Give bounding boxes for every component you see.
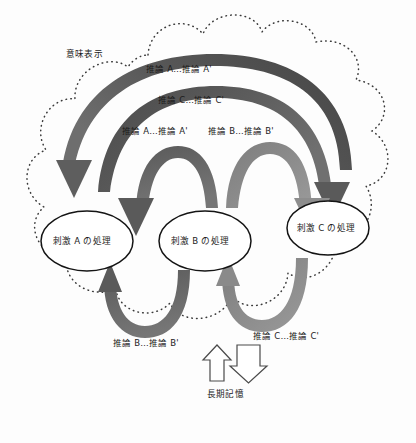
- node-label-a: 刺激 A の処理: [53, 237, 111, 246]
- arrow-label-bottom-right: 推論 C…推論 C': [253, 332, 319, 341]
- arrow-label-top-second: 推論 C…推論 C': [158, 96, 224, 105]
- node-label-b: 刺激 B の処理: [171, 237, 229, 246]
- cloud-label: 意味表示: [66, 50, 103, 59]
- node-label-c: 刺激 C の処理: [297, 224, 355, 233]
- arrow-label-top-outer: 推論 A…推論 A': [146, 65, 212, 74]
- arrow-bottom-right: [216, 256, 308, 332]
- down-arrow-icon: [230, 345, 267, 383]
- arrow-bottom-left: [98, 262, 190, 338]
- long-term-memory-label: 長期記憶: [207, 390, 244, 399]
- arrow-label-mid-right: 推論 B…推論 B': [208, 127, 274, 136]
- diagram-canvas: 意味表示 推論 A…推論 A' 推論 C…推論 C' 推論 A…推論 A' 推論…: [0, 0, 416, 443]
- arrow-label-mid-left: 推論 A…推論 A': [122, 127, 188, 136]
- arrow-label-bottom-left: 推論 B…推論 B': [113, 339, 179, 348]
- up-arrow-icon: [203, 345, 231, 381]
